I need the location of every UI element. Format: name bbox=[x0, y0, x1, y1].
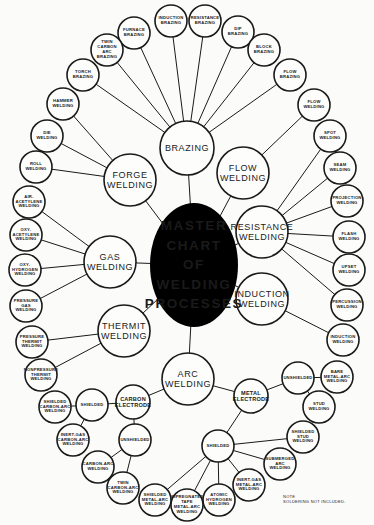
label-submerged-arc-welding: SUBMERGED ARC WELDING bbox=[264, 448, 296, 480]
label-flash-welding: FLASH WELDING bbox=[333, 221, 365, 253]
label-inert-gas-metal-arc-welding: INERT-GAS METAL-ARC WELDING bbox=[233, 469, 265, 501]
label-arc: ARC WELDING bbox=[162, 353, 214, 405]
label-shielded-metal: SHIELDED bbox=[202, 430, 234, 462]
label-resistance-brazing: RESISTANCE BRAZING bbox=[189, 5, 221, 37]
label-oxy-hydrogen-welding: OXY- HYDROGEN WELDING bbox=[9, 254, 41, 286]
label-nonpressure-thermit-welding: NONPRESSURE THERMIT WELDING bbox=[25, 359, 57, 391]
label-brazing: BRAZING bbox=[160, 121, 214, 175]
label-induction-welding-leaf: INDUCTION WELDING bbox=[327, 324, 359, 356]
label-metal-electrode: METAL ELECTRODE bbox=[234, 379, 268, 413]
label-upset-welding: UPSET WELDING bbox=[333, 254, 365, 286]
label-unshielded-carbon: UNSHIELDED bbox=[119, 424, 151, 456]
label-bare-metal-arc-welding: BARE METAL-ARC WELDING bbox=[321, 361, 353, 393]
label-thermit: THERMIT WELDING bbox=[98, 305, 150, 357]
label-atomic-hydrogen-welding: ATOMIC HYDROGEN WELDING bbox=[203, 484, 235, 516]
label-torch-brazing: TORCH BRAZING bbox=[67, 59, 99, 91]
label-spot-welding: SPOT WELDING bbox=[314, 120, 346, 152]
label-center: MASTER CHART OF WELDING PROCESSES bbox=[150, 203, 238, 327]
footnote: NOTE SOLDERING NOT INCLUDED. bbox=[283, 494, 346, 504]
label-flow-brazing: FLOW BRAZING bbox=[274, 59, 306, 91]
label-induction: INDUCTION WELDING bbox=[236, 273, 288, 325]
label-die-welding: DIE WELDING bbox=[31, 120, 63, 152]
label-unshielded-metal: UNSHIELDED bbox=[282, 362, 314, 394]
label-gas: GAS WELDING bbox=[84, 236, 136, 288]
label-pressure-gas-welding: PRESSURE GAS WELDING bbox=[10, 290, 42, 322]
label-forge: FORGE WELDING bbox=[104, 154, 156, 206]
label-oxy-acetylene-welding: OXY- ACETYLENE WELDING bbox=[10, 219, 42, 251]
label-stud-welding: STUD WELDING bbox=[303, 391, 335, 423]
label-roll-welding: ROLL WELDING bbox=[20, 151, 52, 183]
label-percussion-welding: PERCUSSION WELDING bbox=[331, 289, 363, 321]
label-seam-welding: SEAM WELDING bbox=[324, 152, 356, 184]
label-shielded-metal-arc-welding: SHIELDED METAL-ARC WELDING bbox=[139, 484, 171, 516]
label-resistance: RESISTANCE WELDING bbox=[236, 206, 288, 258]
label-hammer-welding: HAMMER WELDING bbox=[47, 88, 79, 120]
label-shielded-carbon-arc-welding: SHIELDED CARBON-ARC WELDING bbox=[39, 391, 71, 423]
label-impregnated-tape-metal-arc-welding: IMPREGNATED TAPE METAL-ARC WELDING bbox=[171, 489, 203, 521]
label-twin-carbon-arc-welding: TWIN CARBON-ARC WELDING bbox=[107, 472, 139, 504]
label-flow: FLOW WELDING bbox=[217, 147, 269, 199]
label-projection-welding: PROJECTION WELDING bbox=[331, 185, 363, 217]
label-carbon-electrode: CARBON ELECTRODE bbox=[116, 385, 150, 419]
label-shielded-carbon: SHIELDED bbox=[76, 389, 108, 421]
label-air-acetylene-welding: AIR- ACETYLENE WELDING bbox=[13, 186, 45, 218]
label-induction-brazing: INDUCTION BRAZING bbox=[155, 5, 187, 37]
label-pressure-thermit-welding: PRESSURE THERMIT WELDING bbox=[16, 326, 48, 358]
label-flow-welding-leaf: FLOW WELDING bbox=[298, 89, 330, 121]
